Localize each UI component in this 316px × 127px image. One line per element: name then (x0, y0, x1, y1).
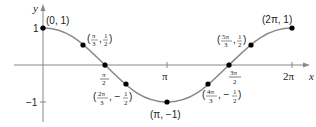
point-pi2-0 (102, 62, 107, 67)
svg-text:(: ( (202, 89, 206, 100)
svg-text:, −: , − (109, 91, 121, 102)
svg-text:2: 2 (124, 99, 128, 107)
xtick-label-2pi: 2π (283, 70, 295, 82)
point-label-0-1: (0, 1) (46, 15, 69, 26)
svg-text:2: 2 (238, 41, 242, 49)
svg-text:2: 2 (104, 40, 108, 48)
svg-text:3: 3 (209, 97, 213, 105)
svg-text:2: 2 (233, 78, 237, 86)
xtick-label-pi: π (162, 70, 168, 82)
point-0-1 (40, 25, 45, 30)
point-label-pi3-half: ( π 3 , 1 2 ) (87, 32, 112, 48)
svg-text:π: π (92, 32, 96, 40)
svg-text:): ) (238, 89, 241, 100)
point-label-5pi3-half: ( 5π 3 , 1 2 ) (217, 33, 246, 49)
point-3pi2-0 (226, 62, 231, 67)
y-axis-label: y (32, 2, 38, 14)
ytick-label-m1: −1 (26, 97, 38, 108)
svg-text:1: 1 (104, 32, 108, 40)
x-axis-arrow-icon (303, 63, 310, 68)
point-pi3-half (80, 42, 85, 47)
point-label-2pi-1: (2π, 1) (262, 14, 292, 25)
svg-text:1: 1 (124, 90, 128, 98)
point-label-4pi3-mhalf: ( 4π 3 , − 1 2 ) (202, 88, 241, 105)
point-pi-m1 (164, 99, 169, 104)
svg-text:π: π (102, 71, 106, 79)
svg-text:2: 2 (102, 79, 106, 87)
point-5pi3-half (248, 42, 253, 47)
svg-text:2π: 2π (98, 90, 106, 98)
svg-text:3π: 3π (230, 69, 238, 77)
point-4pi3-mhalf (205, 81, 210, 86)
point-2pi-1 (289, 25, 294, 30)
svg-text:2: 2 (233, 97, 237, 105)
svg-text:,: , (233, 34, 236, 45)
svg-text:3: 3 (224, 41, 228, 49)
x-axis-label: x (308, 70, 314, 82)
svg-text:): ) (243, 34, 246, 45)
svg-text:3: 3 (92, 40, 96, 48)
svg-text:): ) (129, 91, 132, 102)
svg-text:3: 3 (100, 99, 104, 107)
svg-text:1: 1 (233, 88, 237, 96)
svg-text:4π: 4π (207, 88, 215, 96)
ytick-label-1: 1 (33, 23, 39, 34)
svg-text:): ) (109, 33, 112, 44)
svg-text:(: ( (217, 34, 221, 45)
svg-text:1: 1 (238, 33, 242, 41)
svg-text:5π: 5π (222, 33, 230, 41)
svg-text:,: , (99, 33, 102, 44)
svg-text:, −: , − (218, 89, 230, 100)
cosine-graph: y x 1 −1 π 2 π 3π 2 2π (0, 1) (2π, 1) (π… (0, 0, 316, 127)
point-2pi3-mhalf (123, 81, 128, 86)
y-axis-arrow-icon (41, 4, 46, 11)
point-label-pi-m1: (π, −1) (150, 109, 181, 120)
svg-text:(: ( (87, 33, 91, 44)
svg-text:(: ( (93, 91, 97, 102)
xtick-label-pi-half: π 2 (100, 71, 109, 87)
point-label-2pi3-mhalf: ( 2π 3 , − 1 2 ) (93, 90, 132, 107)
xtick-label-3pi-half: 3π 2 (229, 69, 241, 86)
